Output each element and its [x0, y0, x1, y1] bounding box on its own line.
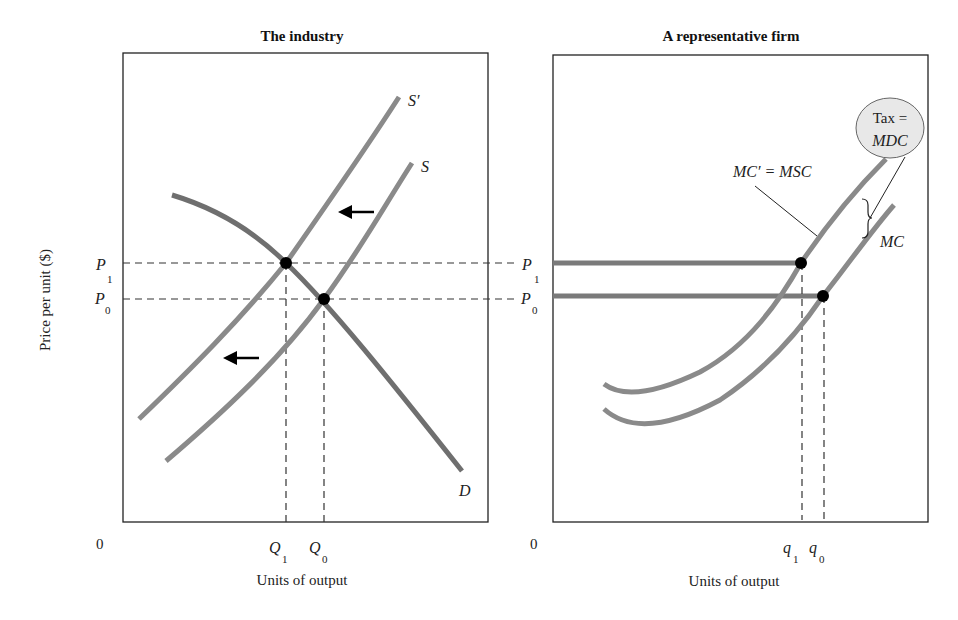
msc-curve: [604, 159, 886, 392]
right-tick-p1-sub: 1: [534, 273, 540, 285]
left-tick-p1-sub: 1: [107, 273, 113, 285]
left-tick-q1-sub: 1: [282, 553, 288, 565]
right-tick-p0-sub: 0: [532, 304, 538, 316]
tax-label-line1: Tax =: [873, 110, 907, 126]
left-panel-title: The industry: [261, 28, 344, 44]
right-tick-q0: q: [809, 539, 817, 557]
left-tick-p1: P: [95, 256, 106, 273]
chart-canvas: The industry Price per unit ($) S′ S D P…: [0, 0, 958, 620]
right-tick-q1: q: [783, 539, 791, 557]
y-axis-label: Price per unit ($): [37, 249, 54, 351]
left-tick-q0: Q: [309, 539, 321, 556]
equilibrium-point-1: [280, 257, 292, 269]
tax-label-line2: MDC: [871, 132, 908, 149]
left-tick-p0-sub: 0: [105, 304, 111, 316]
left-origin: 0: [96, 536, 104, 552]
left-tick-q0-sub: 0: [322, 553, 328, 565]
firm-point-1: [795, 257, 807, 269]
left-tick-q1: Q: [269, 539, 281, 556]
right-tick-p0: P: [520, 290, 531, 307]
tax-bubble: [856, 98, 924, 158]
label-s: S: [421, 158, 429, 175]
right-origin: 0: [530, 536, 538, 552]
left-x-axis-label: Units of output: [257, 572, 349, 588]
equilibrium-point-0: [318, 293, 330, 305]
supply-curve-s-prime: [139, 97, 399, 419]
right-panel-title: A representative firm: [663, 28, 800, 44]
right-tick-q1-sub: 1: [793, 553, 799, 565]
label-mc: MC: [879, 233, 904, 250]
firm-point-0: [817, 290, 829, 302]
label-d: D: [458, 482, 471, 499]
shift-arrow-lower: [223, 351, 259, 365]
right-x-axis-label: Units of output: [689, 573, 781, 589]
label-msc: MC′ = MSC: [732, 163, 812, 180]
shift-arrow-upper: [338, 205, 374, 219]
demand-curve-d: [172, 195, 462, 471]
label-s-prime: S′: [408, 92, 420, 109]
msc-leader-line: [755, 186, 817, 236]
left-tick-p0: P: [94, 290, 105, 307]
right-tick-p1: P: [521, 256, 532, 273]
right-tick-q0-sub: 0: [819, 553, 825, 565]
